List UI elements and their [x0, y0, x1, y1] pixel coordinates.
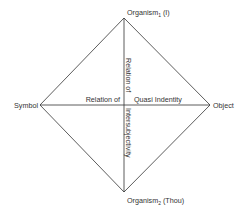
edge-top-left: [40, 18, 124, 105]
edge-bottom-right: [124, 105, 210, 192]
vertex-right-label: Object: [213, 101, 234, 110]
vertex-bottom-label: Organism2 (Thou): [127, 196, 184, 206]
diamond-outline: [40, 18, 210, 192]
diamond-diagram: Organism1 (I) Organism2 (Thou) Symbol Ob…: [0, 0, 246, 212]
horizontal-axis-right-label: Quasi Indentity: [134, 95, 182, 104]
horizontal-axis-left-label: Relation of: [86, 95, 120, 104]
edge-top-right: [124, 18, 210, 105]
vertex-top-label: Organism1 (I): [127, 8, 170, 18]
vertical-axis-bottom-label: Intersubjectivity: [124, 108, 133, 158]
edge-bottom-left: [40, 105, 124, 192]
vertical-axis-top-label: Relation of: [124, 58, 133, 92]
vertex-left-label: Symbol: [14, 101, 38, 110]
